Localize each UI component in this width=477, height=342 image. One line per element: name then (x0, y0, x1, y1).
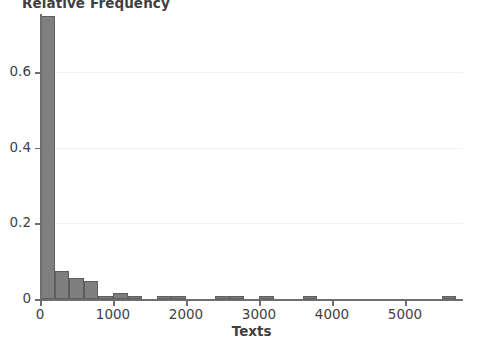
gridline-y-2 (40, 148, 463, 149)
gridline-y-3 (40, 72, 463, 73)
plot-area: 00.20.40.6010002000300040005000 (0, 0, 477, 342)
x-axis-label: Texts (0, 323, 477, 339)
x-tick-label: 0 (0, 306, 80, 322)
gridline-y-1 (40, 223, 463, 224)
histogram-bar (55, 271, 70, 299)
y-tick-3 (35, 72, 40, 74)
x-tick-label: 5000 (365, 306, 445, 322)
y-tick-label: 0 (22, 290, 31, 306)
y-tick-2 (35, 148, 40, 150)
x-tick-5 (405, 301, 407, 306)
y-tick-label: 0.4 (10, 139, 31, 155)
y-tick-label: 0.2 (10, 214, 31, 230)
y-tick-label: 0.6 (10, 63, 31, 79)
x-tick-label: 3000 (219, 306, 299, 322)
y-tick-1 (35, 223, 40, 225)
y-axis-line (40, 14, 42, 299)
histogram-bar (84, 281, 99, 299)
x-axis-line (40, 299, 463, 301)
x-tick-3 (259, 301, 261, 306)
x-tick-0 (40, 301, 42, 306)
x-tick-2 (186, 301, 188, 306)
relative-frequency-histogram: Relative Frequency 00.20.40.601000200030… (0, 0, 477, 342)
x-tick-label: 2000 (146, 306, 226, 322)
histogram-bar (40, 16, 55, 299)
x-tick-label: 4000 (292, 306, 372, 322)
histogram-bar (69, 278, 84, 299)
x-tick-label: 1000 (73, 306, 153, 322)
x-tick-4 (332, 301, 334, 306)
x-tick-1 (113, 301, 115, 306)
